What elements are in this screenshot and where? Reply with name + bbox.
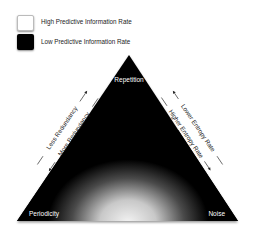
vertex-label-repetition: Repetition	[114, 76, 144, 84]
vertex-label-noise: Noise	[208, 210, 225, 217]
arrowhead-icon	[84, 90, 88, 94]
arrowhead-icon	[172, 90, 176, 94]
right-inner-dash-start	[161, 98, 167, 106]
arrowhead-icon	[208, 167, 212, 171]
right-outer-dash-end	[217, 156, 223, 164]
information-triangle-diagram: Repetition Periodicity Noise Less Redund…	[0, 0, 254, 237]
left-outer-dash-start	[37, 156, 43, 164]
vertex-label-periodicity: Periodicity	[29, 210, 60, 218]
arrow-right-icon	[80, 93, 86, 101]
arrow-left-icon	[175, 93, 179, 99]
arrow-right-icon	[204, 161, 208, 168]
